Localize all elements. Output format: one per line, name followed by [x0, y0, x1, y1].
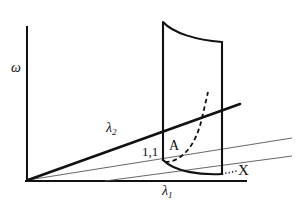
point-label-a: A	[169, 139, 179, 153]
lambda2-label: λ2	[106, 121, 117, 137]
x-leader-dotted	[222, 171, 237, 174]
surface-top-curve	[163, 22, 222, 42]
thin-ray-lower-line	[105, 156, 292, 181]
figure-container: ω λ2 λ1 1,1 A X	[0, 0, 301, 207]
y-axis-label: ω	[11, 61, 21, 75]
lambda2-line	[28, 104, 240, 180]
point-label-one-one: 1,1	[142, 145, 158, 158]
diagram-canvas	[0, 0, 301, 207]
x-axis-label: λ1	[162, 184, 173, 200]
point-label-x: X	[238, 163, 249, 178]
